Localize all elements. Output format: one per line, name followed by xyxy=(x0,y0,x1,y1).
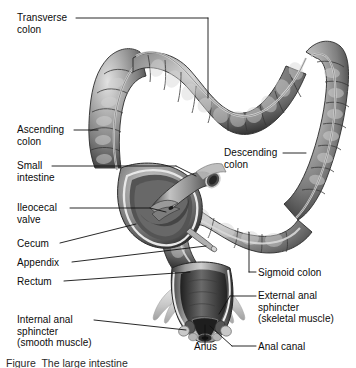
label-ileocecal-valve: Ileocecal valve xyxy=(17,202,57,225)
label-descending-colon: Descending colon xyxy=(224,147,277,170)
label-appendix: Appendix xyxy=(17,257,59,269)
label-sigmoid-colon: Sigmoid colon xyxy=(258,267,321,279)
label-anal-canal: Anal canal xyxy=(258,341,305,353)
label-transverse-colon: Transverse colon xyxy=(17,12,67,35)
label-cecum: Cecum xyxy=(17,238,49,250)
figure-caption: Figure The large intestine xyxy=(6,357,128,368)
label-small-intestine: Small intestine xyxy=(17,160,55,183)
label-anus: Anus xyxy=(194,341,217,353)
transverse-colon-segment xyxy=(133,52,306,134)
leader-cecum xyxy=(60,224,136,243)
leader-internal-anal-sphincter xyxy=(94,320,186,330)
label-internal-anal-sphincter: Internal anal sphincter (smooth muscle) xyxy=(17,314,92,349)
figure-large-intestine: Transverse colon Ascending colon Small i… xyxy=(0,0,356,368)
label-external-anal-sphincter: External anal sphincter (skeletal muscle… xyxy=(258,290,334,325)
label-ascending-colon: Ascending colon xyxy=(17,124,64,147)
label-rectum: Rectum xyxy=(17,276,52,288)
